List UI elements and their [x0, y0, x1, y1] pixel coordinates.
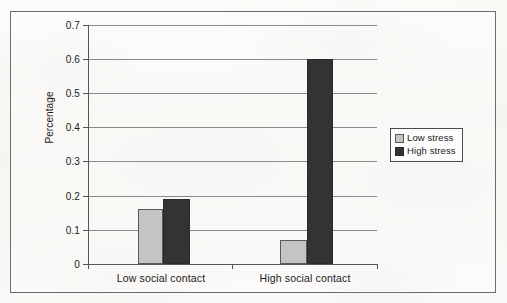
- x-axis-tick-label-high-social-contact: High social contact: [260, 272, 351, 284]
- y-axis-tick-label: 0: [74, 259, 80, 270]
- chart-legend: Low stress High stress: [390, 128, 463, 162]
- x-axis-tick-mark: [88, 264, 89, 269]
- plot-area: [88, 25, 377, 264]
- y-axis-tick-label: 0.5: [66, 88, 80, 99]
- legend-label-low-stress: Low stress: [407, 133, 453, 143]
- y-axis-line: [88, 25, 89, 265]
- x-axis-tick-mark: [377, 264, 378, 269]
- x-axis-line: [88, 264, 378, 265]
- x-axis-tick-mark: [232, 264, 233, 269]
- bar-low-stress-high-social-contact[interactable]: [280, 240, 307, 264]
- gridline: [88, 161, 377, 162]
- y-axis-tick-label-group: 0.7 0.6 0.5 0.4 0.3 0.2 0.1 0: [40, 0, 80, 303]
- gridline: [88, 127, 377, 128]
- legend-swatch-high-stress-icon: [395, 147, 404, 156]
- gridline: [88, 230, 377, 231]
- gridline: [88, 93, 377, 94]
- y-axis-tick-label: 0.3: [66, 156, 80, 167]
- legend-label-high-stress: High stress: [407, 146, 456, 156]
- bar-low-stress-low-social-contact[interactable]: [138, 209, 163, 264]
- gridline: [88, 59, 377, 60]
- x-axis-tick-label-low-social-contact: Low social contact: [117, 272, 206, 284]
- legend-item-low-stress[interactable]: Low stress: [395, 132, 458, 144]
- chart-screenshot: Percentage 0.7 0.6 0.5 0.4 0.3 0.2 0.1 0: [0, 0, 507, 303]
- bar-high-stress-high-social-contact[interactable]: [307, 59, 333, 264]
- legend-swatch-low-stress-icon: [395, 134, 404, 143]
- y-axis-tick-label: 0.1: [66, 225, 80, 236]
- y-axis-tick-label: 0.4: [66, 122, 80, 133]
- y-axis-tick-label: 0.6: [66, 54, 80, 65]
- y-axis-tick-label: 0.2: [66, 191, 80, 202]
- y-axis-tick-label: 0.7: [66, 20, 80, 31]
- legend-item-high-stress[interactable]: High stress: [395, 145, 458, 157]
- gridline: [88, 196, 377, 197]
- gridline: [88, 25, 377, 26]
- bar-high-stress-low-social-contact[interactable]: [163, 199, 190, 264]
